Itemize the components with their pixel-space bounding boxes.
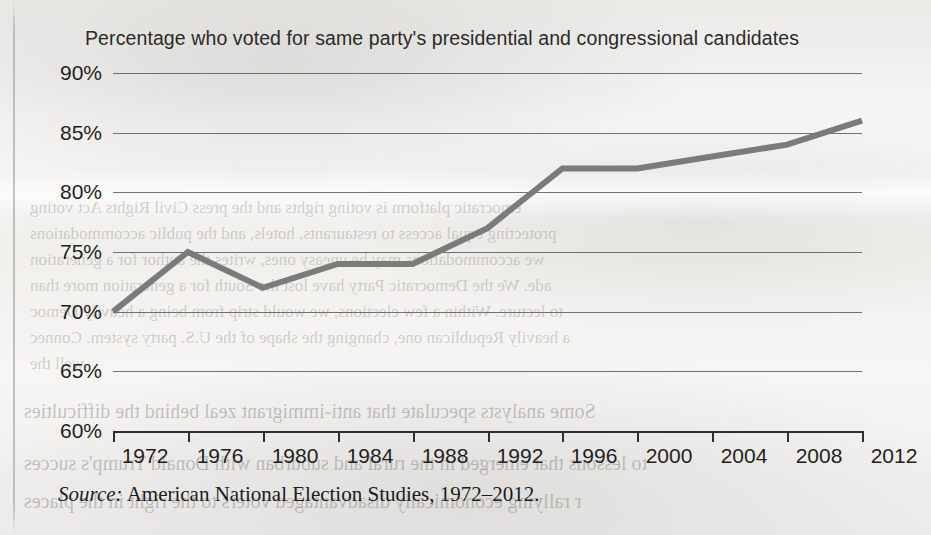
data-series-line xyxy=(0,0,931,535)
source-text: American National Election Studies, 1972… xyxy=(127,482,540,506)
source-note: Source: American National Election Studi… xyxy=(58,482,540,507)
chart-page: emocratic platform is voting rights and … xyxy=(0,0,931,535)
source-label: Source: xyxy=(58,482,123,506)
